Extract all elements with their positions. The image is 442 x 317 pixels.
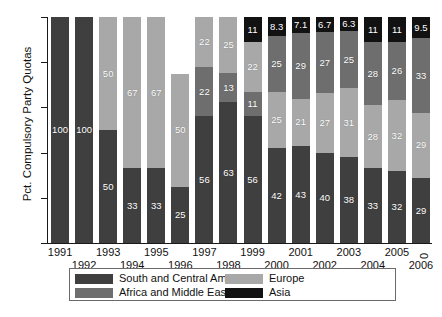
bar-value-label: 32 xyxy=(392,131,403,141)
plot-area: 020406080100 100100505033673367255056222… xyxy=(47,17,432,243)
x-tick-label-1997: 1997 xyxy=(187,246,221,258)
bar-segment-sca: 63 xyxy=(219,102,237,243)
bar-value-label: 11 xyxy=(248,99,258,109)
bar-segment-sca: 29 xyxy=(412,178,430,243)
bar-value-label: 27 xyxy=(319,118,330,128)
x-tick-label-2001: 2001 xyxy=(284,246,318,258)
bar-segment-eur: 27 xyxy=(316,93,334,154)
bar-value-label: 11 xyxy=(368,25,378,35)
bar-segment-sca: 56 xyxy=(195,116,213,243)
bar-segment-sca: 100 xyxy=(51,17,69,243)
bar-value-label: 42 xyxy=(271,191,282,201)
bar-segment-sca: 33 xyxy=(364,168,382,243)
bar-value-label: 50 xyxy=(103,69,114,79)
bar-segment-eur: 31 xyxy=(340,88,358,158)
bar-value-label: 33 xyxy=(127,201,138,211)
legend-swatch-afr xyxy=(75,288,113,298)
y-axis-title: Pct. Compulsory Party Quotas xyxy=(21,19,33,229)
bar-value-label: 40 xyxy=(319,193,330,203)
bar-value-label: 33 xyxy=(151,201,162,211)
bar-segment-sca: 40 xyxy=(316,153,334,243)
bar-segment-afr: 25 xyxy=(268,36,286,92)
bar-segment-eur: 67 xyxy=(147,17,165,168)
bar-segment-eur: 25 xyxy=(219,17,237,73)
legend-swatch-asi xyxy=(225,288,263,298)
bar-value-label: 9.5 xyxy=(414,23,427,33)
bar-value-label: 38 xyxy=(343,195,354,205)
bar-value-label: 67 xyxy=(127,88,138,98)
bar-segment-afr: 28 xyxy=(364,42,382,105)
bar-segment-asi: 9.5 xyxy=(412,17,430,38)
bar-value-label: 29 xyxy=(416,140,427,150)
bar-value-label: 11 xyxy=(392,25,402,35)
x-tick-label-2006: 2006 xyxy=(404,259,438,271)
bar-segment-eur: 21 xyxy=(292,99,310,146)
legend-swatch-sca xyxy=(75,274,113,284)
bar-value-label: 100 xyxy=(76,125,92,135)
bar-1994: 3367 xyxy=(123,17,141,243)
bar-value-label: 29 xyxy=(416,206,427,216)
bar-value-label: 13 xyxy=(223,83,234,93)
bar-value-label: 33 xyxy=(416,71,427,81)
bar-value-label: 22 xyxy=(247,62,258,72)
bar-segment-eur: 29 xyxy=(412,113,430,178)
bar-value-label: 22 xyxy=(199,37,210,47)
bar-segment-afr: 22 xyxy=(195,67,213,117)
bar-value-label: 43 xyxy=(295,190,306,200)
bar-2004: 33282811 xyxy=(364,17,382,243)
bar-value-label: 7.1 xyxy=(294,20,307,30)
bar-2000: 4225258.3 xyxy=(268,17,286,243)
bar-value-label: 22 xyxy=(199,87,210,97)
bar-segment-afr: 26 xyxy=(388,42,406,100)
bar-segment-afr: 11 xyxy=(244,92,262,117)
bar-1998: 631325 xyxy=(219,17,237,243)
x-tick-label-1993: 1993 xyxy=(91,246,125,258)
bar-value-label: 63 xyxy=(223,168,234,178)
bar-value-label: 8.3 xyxy=(270,22,283,32)
x-tick-label-2003: 2003 xyxy=(332,246,366,258)
bar-1996: 2550 xyxy=(171,17,189,243)
bar-segment-sca: 32 xyxy=(388,171,406,243)
bar-2001: 4321297.1 xyxy=(292,17,310,243)
bar-value-label: 56 xyxy=(199,175,210,185)
bar-segment-eur: 25 xyxy=(268,92,286,148)
bar-2002: 4027276.7 xyxy=(316,17,334,243)
bar-segment-afr: 29 xyxy=(292,33,310,98)
bar-value-label: 28 xyxy=(368,69,379,79)
bar-value-label: 25 xyxy=(271,59,282,69)
bar-segment-sca: 33 xyxy=(147,168,165,243)
bar-value-label: 67 xyxy=(151,88,162,98)
bar-2005: 32322611 xyxy=(388,17,406,243)
legend-swatch-eur xyxy=(225,274,263,284)
bar-1993: 5050 xyxy=(99,17,117,243)
bar-value-label: 28 xyxy=(368,132,379,142)
x-tick-label-1999: 1999 xyxy=(236,246,270,258)
x-tick-label-1995: 1995 xyxy=(139,246,173,258)
bar-value-label: 27 xyxy=(319,58,330,68)
bar-segment-afr: 33 xyxy=(412,38,430,112)
bar-segment-sca: 25 xyxy=(171,187,189,244)
bar-2003: 3831256.3 xyxy=(340,17,358,243)
legend: South and Central AmericaEuropeAfrica an… xyxy=(69,268,396,301)
bar-value-label: 29 xyxy=(295,61,306,71)
bar-segment-sca: 100 xyxy=(75,17,93,243)
bar-segment-sca: 56 xyxy=(244,116,262,243)
bar-value-label: 25 xyxy=(271,115,282,125)
bar-value-label: 6.3 xyxy=(342,19,355,29)
bar-value-label: 25 xyxy=(223,40,234,50)
bar-segment-asi: 8.3 xyxy=(268,17,286,36)
bar-1995: 3367 xyxy=(147,17,165,243)
bar-segment-asi: 7.1 xyxy=(292,17,310,33)
bar-segment-eur: 50 xyxy=(171,74,189,187)
bar-value-label: 26 xyxy=(392,66,403,76)
bar-value-label: 11 xyxy=(248,25,258,35)
stacked-bar-chart: Pct. Compulsory Party Quotas 02040608010… xyxy=(0,0,442,317)
bar-segment-eur: 22 xyxy=(195,17,213,67)
bar-segment-asi: 6.7 xyxy=(316,17,334,32)
bar-segment-eur: 67 xyxy=(123,17,141,168)
bar-segment-eur: 28 xyxy=(364,105,382,168)
bar-segment-sca: 50 xyxy=(99,130,117,243)
legend-item-sca: South and Central America xyxy=(75,272,215,285)
bar-segment-sca: 42 xyxy=(268,148,286,243)
legend-label: Africa and Middle East xyxy=(119,287,229,298)
